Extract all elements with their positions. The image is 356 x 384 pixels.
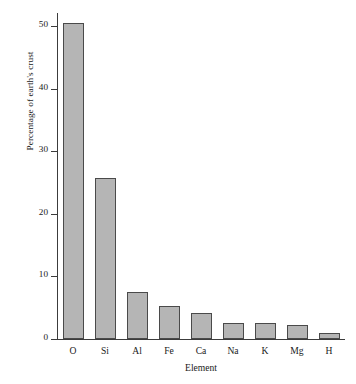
y-axis-tick-label: 30 [39, 144, 48, 154]
bar [95, 178, 116, 339]
y-axis-tick-label: 10 [39, 269, 48, 279]
y-axis-tick: 40 [51, 89, 57, 90]
plot-area: 01020304050 OSiAlFeCaNaKMgH [57, 13, 345, 340]
bar [159, 306, 180, 339]
bar-chart-figure: Percentage of earth's crust 01020304050 … [0, 0, 356, 384]
y-axis-tick: 30 [51, 151, 57, 152]
y-axis-tick: 0 [51, 339, 57, 340]
bar [287, 325, 308, 339]
bar [319, 333, 340, 339]
x-axis-line [57, 339, 345, 340]
y-axis-tick-label: 40 [39, 82, 48, 92]
y-axis-tick: 10 [51, 276, 57, 277]
bar [63, 23, 84, 339]
bar [191, 313, 212, 339]
bar [127, 292, 148, 339]
y-axis-title: Percentage of earth's crust [25, 1, 35, 201]
y-axis-line [57, 13, 58, 340]
y-axis-tick: 50 [51, 26, 57, 27]
bar [255, 323, 276, 339]
y-axis-tick-label: 20 [39, 207, 48, 217]
bar [223, 323, 244, 339]
x-axis-tick-label: H [309, 345, 349, 356]
y-axis-tick-label: 50 [39, 19, 48, 29]
y-axis-tick: 20 [51, 214, 57, 215]
x-axis-title: Element [57, 362, 345, 373]
y-axis-tick-label: 0 [43, 332, 48, 342]
